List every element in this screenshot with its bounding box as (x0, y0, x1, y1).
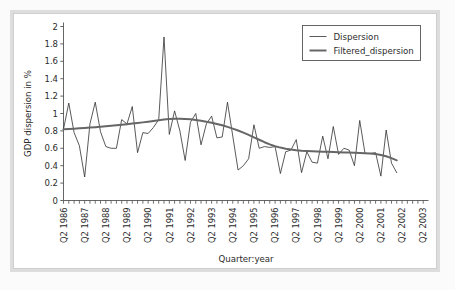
y-axis-tick-label: 1.2 (44, 91, 58, 101)
x-axis-tick-label: Q2 2000 (355, 208, 365, 244)
x-axis-title: Quarter:year (218, 254, 274, 264)
x-axis-tick-label: Q2 1992 (186, 208, 196, 244)
x-axis-tick-label: Q2 1991 (165, 208, 175, 244)
gdp-dispersion-line-chart: GDP dispersion in % 00.20.40.60.811.21.4… (0, 0, 455, 290)
y-axis-tick-label: 1.8 (44, 39, 58, 49)
x-axis-tick-label: Q2 1993 (207, 208, 217, 244)
x-axis-tick-label: Q2 2001 (376, 208, 386, 244)
x-axis-tick-label: Q2 1989 (122, 208, 132, 244)
y-axis-title: GDP dispersion in % (23, 70, 33, 157)
x-axis-tick-label: Q2 1999 (334, 208, 344, 244)
x-axis-tick-label: Q2 1986 (59, 208, 69, 244)
y-axis-tick-label: 2 (53, 22, 58, 32)
chart-container: GDP dispersion in % 00.20.40.60.811.21.4… (0, 0, 455, 290)
legend-label-dispersion: Dispersion (334, 32, 379, 42)
y-axis-tick-label: 0 (53, 196, 58, 206)
figure-page: GDP dispersion in % 00.20.40.60.811.21.4… (0, 0, 455, 290)
x-axis-tick-label: Q2 1990 (143, 208, 153, 244)
legend-label-filtered-dispersion: Filtered_dispersion (334, 46, 414, 56)
series-line-filtered-dispersion (64, 119, 397, 161)
y-axis-tick-label: 0.4 (44, 161, 58, 171)
x-axis-tick-label: Q2 1988 (101, 208, 111, 244)
y-axis-tick-label: 1 (53, 109, 58, 119)
y-axis-tick-label: 0.2 (44, 178, 58, 188)
x-axis-tick-label: Q2 1996 (270, 208, 280, 244)
x-axis-tick-label: Q2 1997 (291, 208, 301, 244)
x-axis-tick-label: Q2 2002 (397, 208, 407, 244)
y-axis-tick-label: 1.4 (44, 74, 58, 84)
x-axis-tick-label: Q2 2003 (418, 208, 428, 244)
y-axis-tick-labels: 00.20.40.60.811.21.41.61.82 (44, 22, 58, 206)
y-axis-tick-label: 0.8 (44, 126, 58, 136)
x-axis-tick-labels: Q2 1986Q2 1987Q2 1988Q2 1989Q2 1990Q2 19… (59, 208, 429, 244)
chart-legend: DispersionFiltered_dispersion (303, 26, 421, 61)
x-axis-tick-label: Q2 1987 (80, 208, 90, 244)
x-axis-tick-label: Q2 1998 (313, 208, 323, 244)
x-axis-tick-label: Q2 1995 (249, 208, 259, 244)
y-axis-tick-label: 0.6 (44, 143, 58, 153)
x-axis-tick-label: Q2 1994 (228, 208, 238, 244)
y-axis-tick-label: 1.6 (44, 56, 58, 66)
